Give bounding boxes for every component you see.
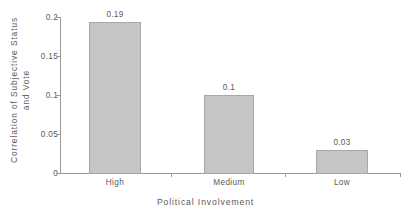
y-axis-line (60, 17, 61, 174)
x-tick-mark-3 (400, 174, 401, 177)
y-tick-label-0.1: 0.1 (14, 91, 58, 100)
x-category-label-low: Low (334, 178, 350, 187)
bar-medium (204, 95, 254, 174)
x-category-label-medium: Medium (213, 178, 245, 187)
bar-value-label-medium: 0.1 (223, 83, 235, 92)
y-tick-label-0.2: 0.2 (14, 13, 58, 22)
bar-high (89, 22, 141, 174)
y-tick-label-0: 0 (14, 169, 58, 178)
x-tick-mark-2 (285, 174, 286, 177)
x-axis-title: Political Involvement (0, 197, 411, 207)
x-tick-mark-1 (171, 174, 172, 177)
y-tick-label-0.05: 0.05 (14, 130, 58, 139)
y-axis-tick-labels: 0.2 0.15 0.1 0.05 0 (10, 0, 58, 215)
bar-value-label-low: 0.03 (333, 138, 350, 147)
y-tick-label-0.15: 0.15 (14, 52, 58, 61)
bar-chart: Correlation of Subjective Status and Vot… (0, 0, 411, 215)
bar-value-label-high: 0.19 (106, 10, 123, 19)
bar-low (316, 150, 368, 174)
x-category-label-high: High (106, 178, 124, 187)
